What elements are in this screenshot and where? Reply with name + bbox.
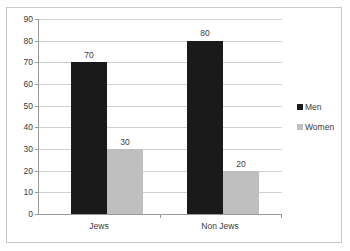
- y-tick-label-10: 10: [24, 188, 33, 197]
- bar-label-nonjews-women: 20: [236, 160, 245, 169]
- x-tick-label-non-jews: Non Jews: [201, 222, 238, 231]
- y-tick-mark-50: [35, 106, 38, 107]
- gridline-80: [38, 41, 282, 42]
- bar-nonjews-women[interactable]: [223, 171, 259, 214]
- bar-label-jews-men: 70: [84, 51, 93, 60]
- y-tick-mark-30: [35, 149, 38, 150]
- y-tick-label-30: 30: [24, 145, 33, 154]
- legend-item-women[interactable]: Women: [297, 123, 334, 132]
- chart-container: 90 80 70 60 50 40 30 20 10 0 70 30 80 20: [6, 7, 342, 243]
- y-tick-label-50: 50: [24, 101, 33, 110]
- legend-swatch-men-icon: [297, 104, 303, 110]
- y-tick-label-60: 60: [24, 80, 33, 89]
- y-tick-label-40: 40: [24, 123, 33, 132]
- bar-label-jews-women: 30: [120, 138, 129, 147]
- gridline-90: [38, 19, 282, 20]
- y-tick-label-20: 20: [24, 166, 33, 175]
- bar-jews-men[interactable]: [71, 62, 107, 214]
- y-tick-label-70: 70: [24, 58, 33, 67]
- bar-jews-women[interactable]: [107, 149, 143, 214]
- chart-legend: Men Women: [297, 103, 334, 142]
- y-tick-mark-40: [35, 127, 38, 128]
- y-tick-mark-20: [35, 171, 38, 172]
- legend-label-men: Men: [305, 103, 322, 112]
- y-tick-mark-70: [35, 62, 38, 63]
- plot-area: 90 80 70 60 50 40 30 20 10 0 70 30 80 20: [38, 19, 282, 215]
- y-tick-mark-60: [35, 84, 38, 85]
- y-tick-label-80: 80: [24, 36, 33, 45]
- y-tick-mark-10: [35, 192, 38, 193]
- y-tick-mark-0: [35, 214, 38, 215]
- bar-label-nonjews-men: 80: [200, 29, 209, 38]
- y-tick-mark-80: [35, 41, 38, 42]
- legend-swatch-women-icon: [297, 124, 303, 130]
- y-tick-mark-90: [35, 19, 38, 20]
- x-tick-label-jews: Jews: [89, 222, 108, 231]
- legend-item-men[interactable]: Men: [297, 103, 334, 112]
- x-tick-mark-jews: [160, 215, 161, 218]
- bar-nonjews-men[interactable]: [187, 41, 223, 214]
- legend-label-women: Women: [305, 123, 334, 132]
- y-tick-label-0: 0: [28, 210, 33, 219]
- y-tick-label-90: 90: [24, 15, 33, 24]
- y-axis-line: [38, 19, 39, 215]
- x-tick-mark-end: [281, 215, 282, 218]
